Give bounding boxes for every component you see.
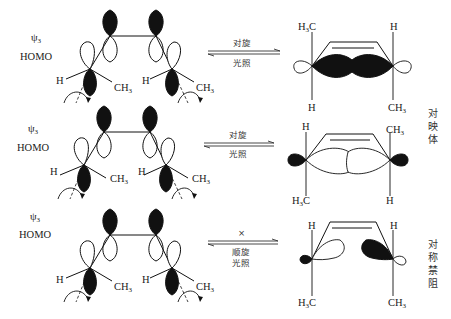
product-row1: H3C H H CH3	[294, 21, 411, 115]
svg-text:H: H	[56, 274, 64, 285]
svg-text:H: H	[302, 121, 310, 132]
svg-text:对: 对	[428, 107, 438, 119]
symmetry-forbidden-label: 对 称 禁 阻	[428, 238, 438, 289]
svg-text:H3C: H3C	[292, 195, 310, 208]
svg-text:CH3: CH3	[114, 82, 133, 95]
svg-text:H3C: H3C	[298, 21, 316, 34]
svg-text:H: H	[50, 166, 58, 177]
product-row2: H CH3 H3C H	[288, 121, 408, 208]
svg-text:顺旋: 顺旋	[232, 247, 250, 257]
svg-text:H: H	[386, 195, 394, 206]
svg-text:H: H	[308, 220, 316, 231]
svg-text:体: 体	[428, 134, 438, 145]
homo-label: HOMO	[20, 51, 53, 62]
svg-text:映: 映	[428, 121, 438, 132]
forbidden-arrow-row3: × 顺旋 光照	[208, 228, 278, 268]
row-1: ψ3 HOMO H CH3 H CH3 对旋 光照 H3C H	[20, 10, 411, 115]
svg-text:H: H	[308, 102, 316, 113]
row-3	[64, 209, 203, 302]
svg-text:CH3: CH3	[196, 82, 215, 95]
svg-text:对旋: 对旋	[233, 38, 251, 48]
row-3-labels: ψ3 HOMO H CH3 H CH3 × 顺旋 光照 H H	[19, 211, 438, 310]
forbidden-mark: ×	[238, 228, 245, 238]
svg-text:对旋: 对旋	[229, 130, 247, 140]
equilibrium-arrow-row2: 对旋 光照	[204, 130, 274, 159]
svg-text:H: H	[390, 21, 398, 32]
rotation-arrow-icon	[64, 92, 88, 103]
svg-text:H: H	[142, 274, 150, 285]
orbital-psi3-label: ψ3	[31, 32, 42, 45]
rotation-arrow-icon	[178, 92, 200, 103]
svg-text:CH3: CH3	[114, 281, 133, 294]
svg-text:H: H	[138, 166, 146, 177]
svg-text:H3C: H3C	[298, 297, 316, 310]
svg-text:光照: 光照	[229, 149, 247, 159]
svg-text:CH3: CH3	[192, 173, 211, 186]
equilibrium-arrow-row1: 对旋 光照	[208, 38, 280, 68]
svg-text:ψ3: ψ3	[28, 123, 39, 136]
svg-text:禁: 禁	[428, 265, 438, 276]
svg-text:HOMO: HOMO	[19, 229, 52, 240]
orbital-diagram: ψ3 HOMO H CH3 H CH3 对旋 光照 H3C H	[0, 0, 451, 319]
svg-text:H: H	[142, 75, 150, 86]
product-row3: H H H3C CH3	[298, 220, 407, 310]
svg-text:称: 称	[428, 251, 438, 263]
svg-text:光照: 光照	[233, 58, 251, 68]
svg-text:H: H	[56, 75, 64, 86]
svg-text:CH3: CH3	[196, 281, 215, 294]
svg-text:H: H	[390, 220, 398, 231]
enantiomer-label: 对 映 体	[428, 107, 438, 145]
svg-text:对: 对	[428, 238, 438, 250]
svg-text:CH3: CH3	[388, 297, 407, 310]
svg-text:CH3: CH3	[110, 173, 129, 186]
svg-text:阻: 阻	[428, 278, 438, 289]
svg-text:CH3: CH3	[388, 102, 407, 115]
svg-text:ψ3: ψ3	[30, 211, 41, 224]
svg-text:HOMO: HOMO	[17, 142, 50, 153]
svg-text:光照: 光照	[232, 258, 250, 268]
svg-text:CH3: CH3	[386, 124, 405, 137]
